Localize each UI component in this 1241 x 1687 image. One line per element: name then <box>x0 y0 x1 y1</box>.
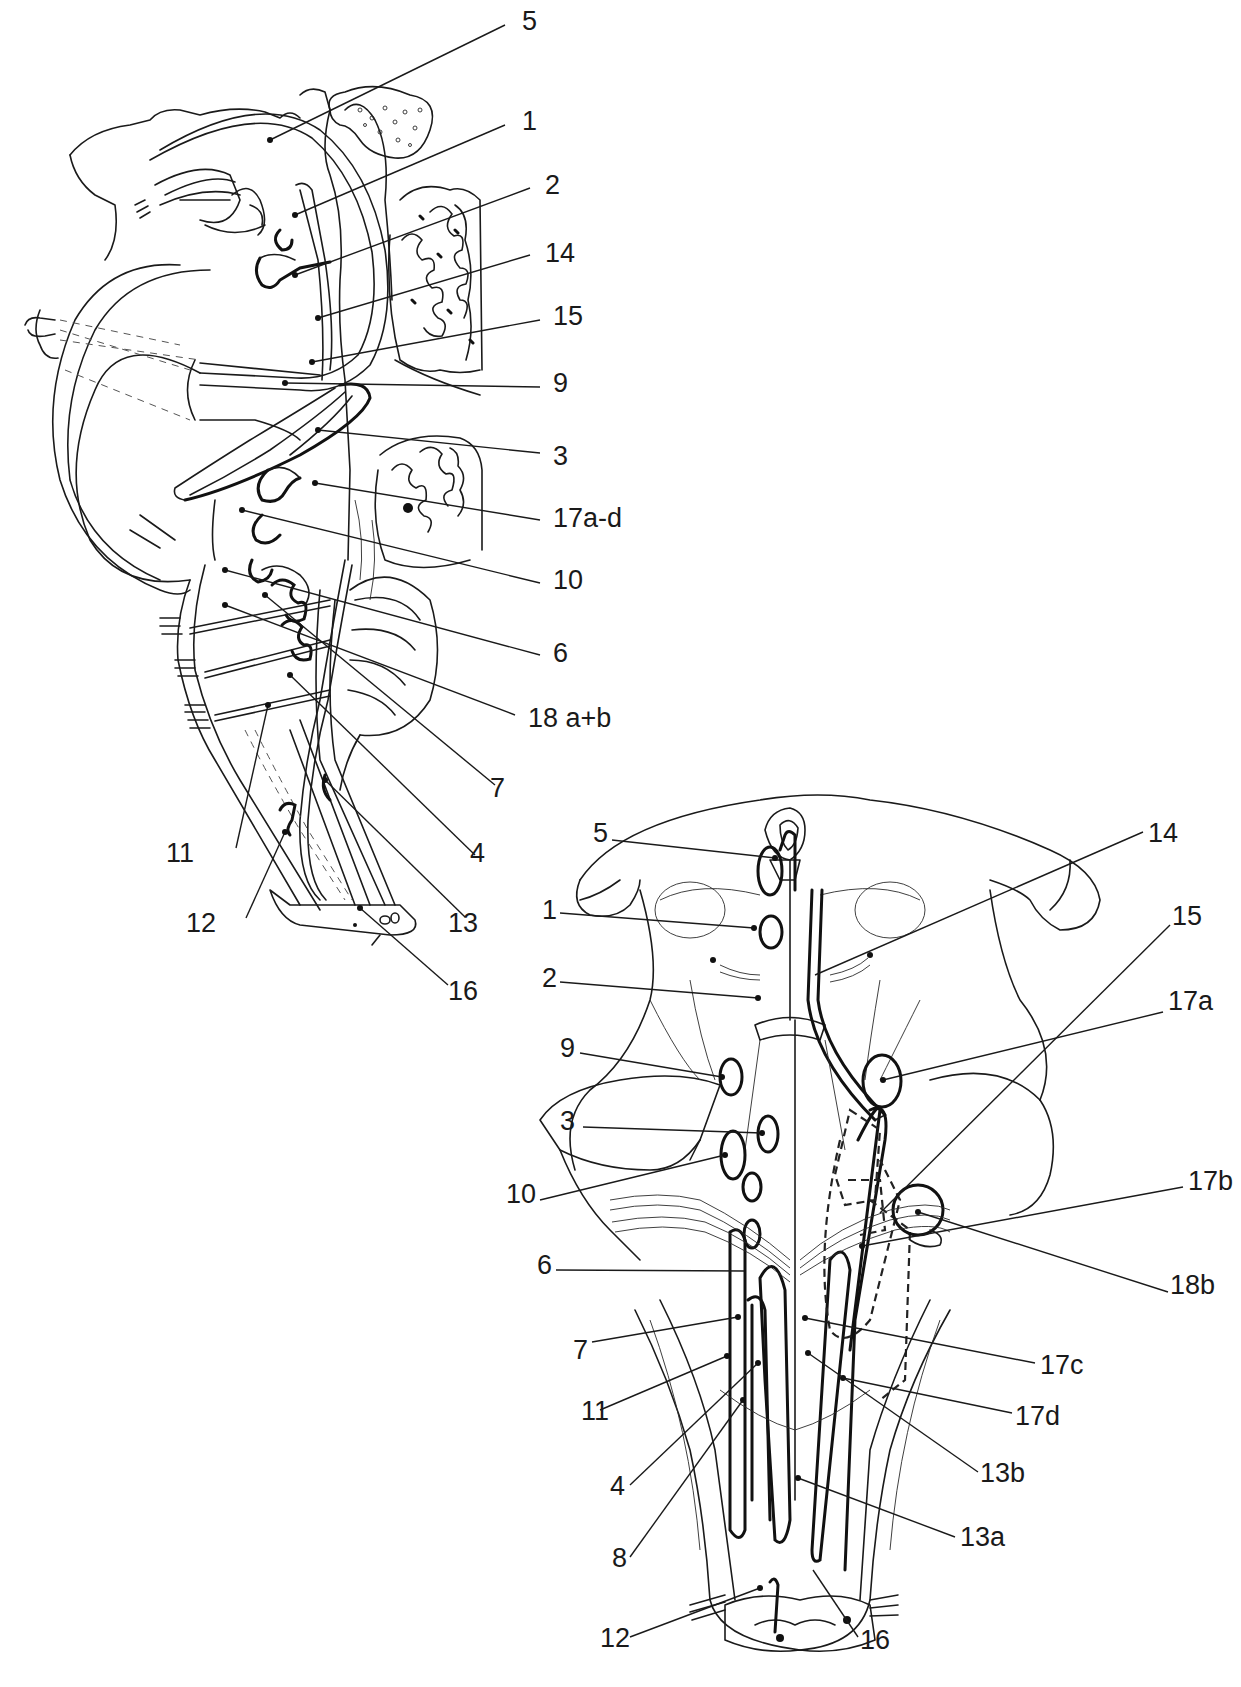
label-1: 1 <box>542 897 557 924</box>
label-2: 2 <box>545 172 560 199</box>
label-10: 10 <box>553 567 583 594</box>
label-13b: 13b <box>980 1460 1025 1487</box>
label-12: 12 <box>600 1625 630 1652</box>
label-10: 10 <box>506 1181 536 1208</box>
label-15: 15 <box>553 303 583 330</box>
label-1: 1 <box>522 108 537 135</box>
label-8: 8 <box>612 1545 627 1572</box>
dorsal-view-drawing <box>540 795 1100 1651</box>
label-9: 9 <box>560 1035 575 1062</box>
label-16: 16 <box>860 1627 890 1654</box>
label-13: 13 <box>448 910 478 937</box>
label-17a: 17a <box>1168 988 1213 1015</box>
lateral-view-drawing <box>25 87 482 945</box>
label-4: 4 <box>610 1473 625 1500</box>
label-14: 14 <box>545 240 575 267</box>
label-3: 3 <box>560 1108 575 1135</box>
label-15: 15 <box>1172 903 1202 930</box>
label-2: 2 <box>542 965 557 992</box>
label-6: 6 <box>537 1252 552 1279</box>
label-5: 5 <box>522 8 537 35</box>
label-7: 7 <box>573 1337 588 1364</box>
label-6: 6 <box>553 640 568 667</box>
label-17c: 17c <box>1040 1352 1084 1379</box>
label-18ab: 18 a+b <box>528 705 611 732</box>
label-14: 14 <box>1148 820 1178 847</box>
lateral-view-leaders <box>222 25 540 985</box>
label-7: 7 <box>490 775 505 802</box>
label-4: 4 <box>470 840 485 867</box>
label-12: 12 <box>186 910 216 937</box>
label-5: 5 <box>593 820 608 847</box>
label-17b: 17b <box>1188 1168 1233 1195</box>
label-18b: 18b <box>1170 1272 1215 1299</box>
label-13a: 13a <box>960 1524 1005 1551</box>
label-17a-d: 17a-d <box>553 505 622 532</box>
label-17d: 17d <box>1015 1403 1060 1430</box>
label-3: 3 <box>553 443 568 470</box>
label-11: 11 <box>166 840 194 867</box>
label-11: 11 <box>581 1398 609 1425</box>
label-16: 16 <box>448 978 478 1005</box>
label-9: 9 <box>553 370 568 397</box>
